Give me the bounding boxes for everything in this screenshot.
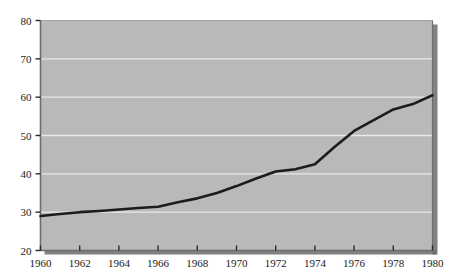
x-tick-label: 1978 bbox=[382, 257, 405, 269]
y-tick-label: 50 bbox=[21, 130, 33, 142]
x-tick-label: 1980 bbox=[422, 257, 445, 269]
line-chart: 2030405060708019601962196419661968197019… bbox=[0, 0, 461, 279]
x-tick-label: 1962 bbox=[69, 257, 91, 269]
plot-shadow-right bbox=[433, 25, 438, 255]
x-tick-label: 1970 bbox=[226, 257, 249, 269]
x-tick-label: 1964 bbox=[108, 257, 131, 269]
y-tick-label: 40 bbox=[21, 168, 33, 180]
y-tick-label: 80 bbox=[21, 15, 33, 27]
x-tick-label: 1972 bbox=[265, 257, 287, 269]
y-tick-label: 30 bbox=[21, 206, 33, 218]
x-tick-label: 1974 bbox=[304, 257, 327, 269]
x-tick-label: 1960 bbox=[30, 257, 53, 269]
y-tick-label: 70 bbox=[21, 53, 33, 65]
x-tick-label: 1976 bbox=[343, 257, 366, 269]
y-tick-label: 60 bbox=[21, 91, 33, 103]
x-tick-label: 1966 bbox=[147, 257, 170, 269]
y-tick-label: 20 bbox=[21, 245, 33, 257]
x-tick-label: 1968 bbox=[186, 257, 209, 269]
chart-canvas: 2030405060708019601962196419661968197019… bbox=[0, 0, 461, 279]
